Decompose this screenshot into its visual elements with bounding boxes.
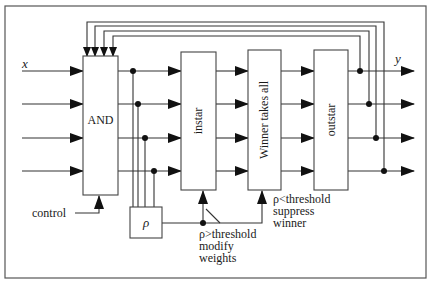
and-label: AND xyxy=(88,113,114,127)
output-label: y xyxy=(393,51,401,66)
art-network-diagram: x y AND instar Winner takes all outstar … xyxy=(0,0,434,284)
outstar-label: outstar xyxy=(324,104,338,137)
control-label: control xyxy=(32,206,67,220)
wta-label: Winner takes all xyxy=(257,80,271,159)
modify-line3: weights xyxy=(199,251,237,265)
input-label: x xyxy=(21,56,28,71)
instar-label: instar xyxy=(191,108,205,135)
rho-label: ρ xyxy=(142,215,149,230)
suppress-line3: winner xyxy=(273,216,306,230)
